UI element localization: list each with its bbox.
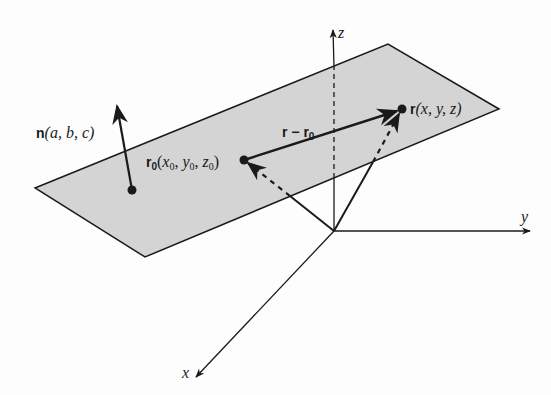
r-point [398,105,407,114]
y-axis-label: y [519,208,529,226]
normal-base-point [128,186,137,195]
diagram-canvas: z y x n(a, b, c) r0(x0, y0, z0) r(x, y, … [0,0,551,395]
diagram-svg: z y x n(a, b, c) r0(x0, y0, z0) r(x, y, … [0,0,551,395]
r0-position-vector-visible [290,196,334,231]
r0-point [240,156,249,165]
plane [35,44,499,257]
normal-vector-label: n(a, b, c) [36,124,94,142]
r0-label: r0(x0, y0, z0) [146,153,219,172]
z-axis-label: z [337,24,345,41]
z-axis-upper [333,30,334,67]
r-label: r(x, y, z) [410,100,462,118]
x-axis-label: x [181,364,189,381]
x-axis [196,231,334,377]
